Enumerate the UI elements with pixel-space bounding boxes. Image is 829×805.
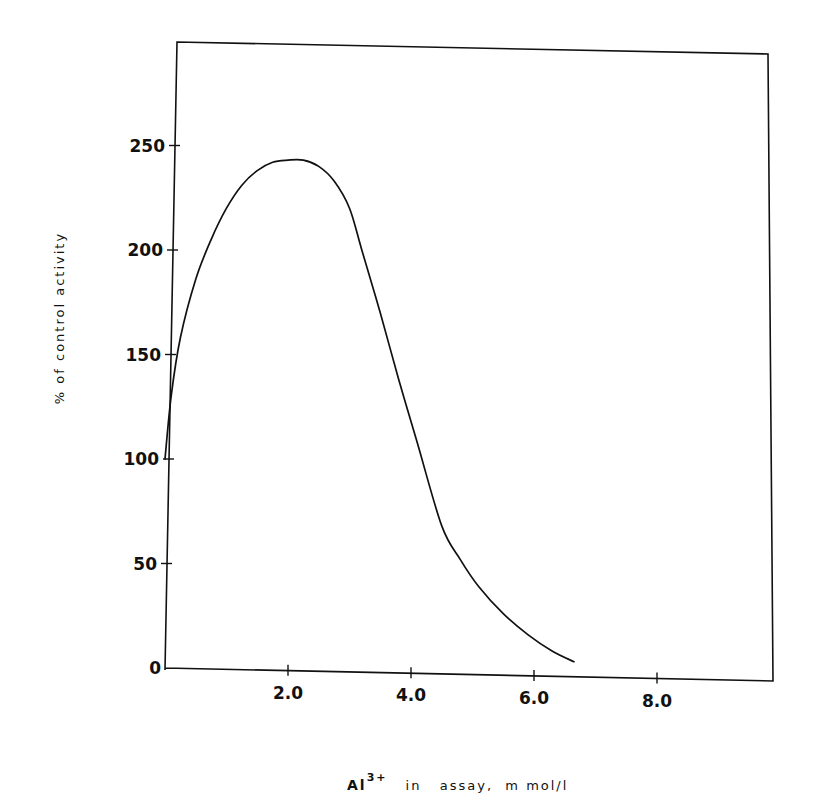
x-tick-label: 2.0 [273, 683, 303, 703]
x-tick-label: 6.0 [519, 688, 549, 708]
x-tick-label: 4.0 [396, 685, 426, 705]
y-tick-label: 100 [124, 449, 160, 469]
x-axis-title: Al3+in assay, m mol/l [347, 771, 568, 793]
series-curves [165, 160, 574, 662]
x-tick-label: 8.0 [642, 691, 672, 711]
plot-border [165, 42, 773, 681]
x-axis-title-ion: Al [347, 777, 367, 793]
plot-frame [165, 42, 773, 681]
y-axis-title: % of control activity [52, 232, 67, 404]
x-axis-title-rest: in assay, m mol/l [406, 778, 569, 793]
y-tick-label: 150 [126, 345, 162, 365]
y-tick-label: 250 [130, 136, 166, 156]
y-tick-label: 200 [128, 240, 164, 260]
series-line-activity [165, 160, 574, 662]
x-axis-title-charge: 3+ [367, 771, 388, 784]
chart: 050100150200250 2.04.06.08.0 % of contro… [0, 0, 829, 805]
y-tick-label: 0 [149, 658, 161, 678]
y-tick-label: 50 [133, 554, 157, 574]
y-axis-ticks: 050100150200250 [124, 136, 181, 679]
